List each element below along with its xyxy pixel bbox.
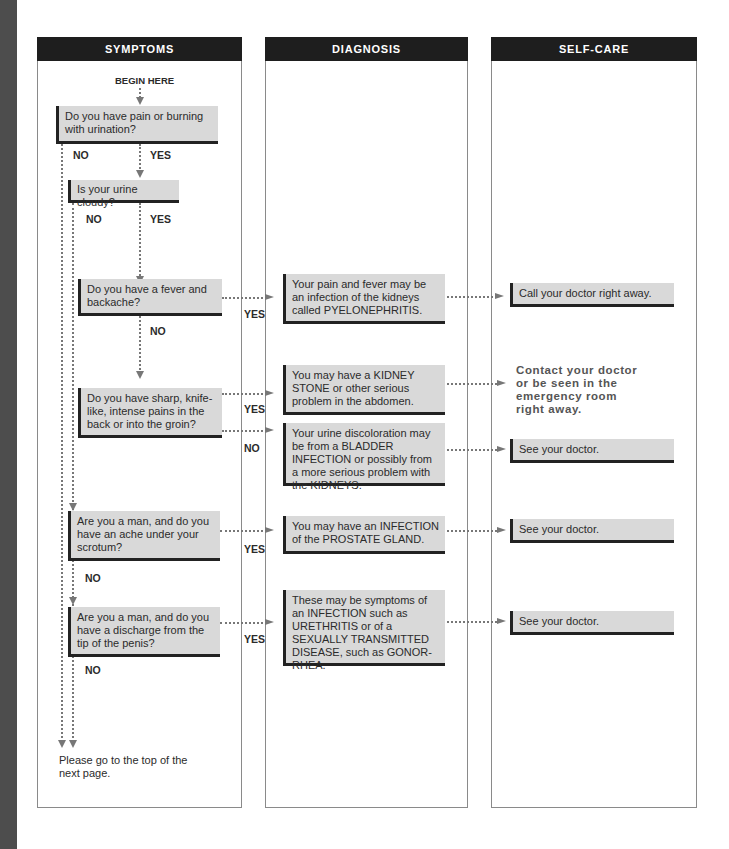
question-fever-backache: Do you have a fever and backache? (78, 279, 222, 316)
diagnosis-bladder-infection: Your urine discoloration may be from a B… (283, 423, 445, 486)
begin-here-label: BEGIN HERE (115, 75, 174, 86)
arrow-right-icon (497, 618, 506, 624)
connector (447, 296, 497, 298)
self-care-column: SELF-CARE (491, 37, 697, 808)
diagnosis-pyelonephritis: Your pain and fever may be an infection … (283, 274, 445, 324)
question-pain-burning: Do you have pain or burning with urinati… (56, 106, 218, 144)
page-edge-strip (0, 0, 17, 849)
arrow-down-icon (136, 97, 144, 105)
question-sharp-pains: Do you have sharp, knife-like, intense p… (78, 388, 222, 438)
self-care-emergency: Contact your doctor or be seen in the em… (516, 364, 646, 416)
arrow-down-icon (136, 170, 144, 178)
self-care-see-doctor-2: See your doctor. (510, 519, 674, 543)
connector (139, 316, 141, 374)
self-care-call-doctor: Call your doctor right away. (510, 283, 674, 307)
connector (447, 530, 497, 532)
arrow-down-icon (69, 503, 77, 511)
arrow-right-icon (497, 527, 506, 533)
question-discharge: Are you a man, and do you have a dischar… (68, 607, 220, 657)
q2-no-label: NO (86, 213, 102, 225)
arrow-down-icon (136, 371, 144, 379)
q4-no-label: NO (244, 442, 260, 454)
arrow-right-icon (265, 527, 274, 533)
arrow-right-icon (265, 294, 274, 300)
q6-no-label: NO (85, 664, 101, 676)
q4-yes-label: YES (244, 403, 265, 415)
arrow-right-icon (497, 380, 506, 386)
self-care-see-doctor-1: See your doctor. (510, 439, 674, 463)
connector (447, 383, 497, 385)
connector (139, 144, 141, 172)
diagnosis-prostate: You may have an INFECTION of the PROSTAT… (283, 516, 445, 554)
connector-no-main (61, 144, 63, 742)
q5-yes-label: YES (244, 543, 265, 555)
symptoms-header: SYMPTOMS (37, 37, 242, 61)
connector (220, 622, 267, 624)
end-note: Please go to the top of the next page. (59, 754, 189, 780)
diagnosis-kidney-stone: You may have a KIDNEY STONE or other ser… (283, 365, 445, 415)
arrow-right-icon (265, 427, 274, 433)
self-care-header: SELF-CARE (491, 37, 697, 61)
connector (222, 393, 267, 395)
q3-yes-label: YES (244, 308, 265, 320)
connector (222, 297, 267, 299)
connector (447, 621, 497, 623)
question-scrotum-ache: Are you a man, and do you have an ache u… (68, 511, 220, 561)
connector-no-second (72, 203, 74, 742)
q1-yes-label: YES (150, 149, 171, 161)
q1-no-label: NO (73, 149, 89, 161)
arrow-down-icon (69, 740, 77, 748)
connector (447, 449, 497, 451)
q2-yes-label: YES (150, 213, 171, 225)
arrow-right-icon (497, 446, 506, 452)
connector (222, 430, 267, 432)
q3-no-label: NO (150, 325, 166, 337)
connector (139, 203, 141, 279)
arrow-right-icon (265, 619, 274, 625)
arrow-down-icon (69, 597, 77, 605)
self-care-see-doctor-3: See your doctor. (510, 611, 674, 635)
connector (220, 530, 267, 532)
question-urine-cloudy: Is your urine cloudy? (68, 180, 179, 203)
arrow-right-icon (495, 293, 504, 299)
diagnosis-std: These may be symptoms of an INFECTION su… (283, 590, 445, 666)
q6-yes-label: YES (244, 633, 265, 645)
arrow-down-icon (58, 740, 66, 748)
diagnosis-header: DIAGNOSIS (265, 37, 468, 61)
arrow-right-icon (265, 390, 274, 396)
q5-no-label: NO (85, 572, 101, 584)
